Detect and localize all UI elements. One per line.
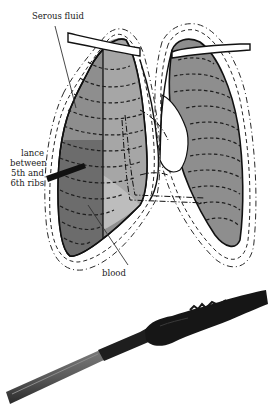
- lance-label-line-3: 5th and: [10, 168, 44, 178]
- lung-diagram: [0, 0, 269, 411]
- blood-label: blood: [102, 268, 126, 278]
- lance-photo: [6, 290, 268, 404]
- lance-label-line-1: lance: [10, 148, 44, 158]
- lance-label: lance between 5th and 6th ribs: [10, 148, 44, 188]
- right-lung: [45, 29, 160, 270]
- lance-label-line-2: between: [10, 158, 44, 168]
- lance-label-line-4: 6th ribs: [10, 178, 44, 188]
- thoracentesis-figure: Serous fluid lance between 5th and 6th r…: [0, 0, 269, 411]
- serous-fluid-label: Serous fluid: [32, 11, 84, 21]
